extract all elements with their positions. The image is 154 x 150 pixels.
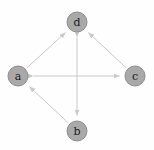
edge-b-a xyxy=(29,87,68,123)
node-label-d: d xyxy=(73,16,80,29)
graph-node-a[interactable]: a xyxy=(8,66,28,86)
graph-svg: abcd xyxy=(0,0,154,150)
edge-c-d xyxy=(88,33,126,68)
node-label-b: b xyxy=(73,125,80,138)
edge-a-d xyxy=(27,32,66,67)
graph-node-b[interactable]: b xyxy=(67,121,87,141)
edges-layer xyxy=(27,32,126,122)
graph-diagram-canvas: abcd xyxy=(0,0,154,150)
graph-node-c[interactable]: c xyxy=(125,66,145,86)
node-label-c: c xyxy=(132,70,138,83)
graph-node-d[interactable]: d xyxy=(67,12,87,32)
node-label-a: a xyxy=(15,70,22,83)
